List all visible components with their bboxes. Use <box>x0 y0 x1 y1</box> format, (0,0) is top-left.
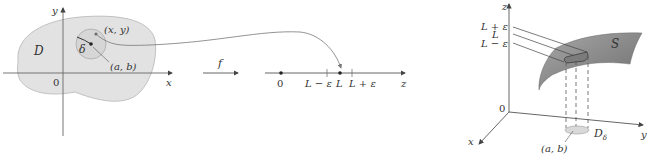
limit-diagram: x y 0 D δ (x, y) (a, b) f 0 L − ε L L + … <box>0 0 654 167</box>
surface-label: S <box>611 37 619 51</box>
nl-upper-label: L + ε <box>348 78 376 89</box>
x-axis-3d-label: x <box>468 136 474 147</box>
function-label: f <box>217 57 224 70</box>
origin-3d-label: 0 <box>499 103 505 114</box>
y-axis-label: y <box>51 5 58 16</box>
nl-center-label: L <box>335 78 343 89</box>
disk-d-delta <box>565 126 589 134</box>
point-ab <box>89 42 93 46</box>
point-ab-label: (a, b) <box>110 61 137 72</box>
point-xy-label: (x, y) <box>104 24 130 35</box>
x-axis-3d <box>479 112 509 144</box>
nl-lower-label: L − ε <box>304 78 332 89</box>
origin-label: 0 <box>53 77 59 88</box>
nl-axis-label: z <box>400 78 407 89</box>
delta-label: δ <box>79 43 86 56</box>
surface-plot: z y x 0 S L + ε L L − ε Dδ (a, b) <box>468 1 647 154</box>
level-lower-label: L − ε <box>480 38 508 49</box>
function-arrow: f <box>203 57 238 73</box>
level-upper-line <box>513 27 587 52</box>
surface-s <box>539 33 642 90</box>
nl-origin-label: 0 <box>277 78 283 89</box>
domain-plot: x y 0 D δ (x, y) (a, b) <box>3 5 341 136</box>
origin-point <box>279 71 283 75</box>
disk-label: Dδ <box>593 127 607 142</box>
x-axis-label: x <box>166 77 172 88</box>
region-label: D <box>33 44 44 58</box>
l-point <box>338 71 342 75</box>
y-axis-3d-label: y <box>640 129 647 140</box>
point-ab-3d-label: (a, b) <box>541 143 568 154</box>
number-line: 0 L − ε L L + ε z <box>265 69 407 89</box>
z-axis-label: z <box>501 1 508 12</box>
